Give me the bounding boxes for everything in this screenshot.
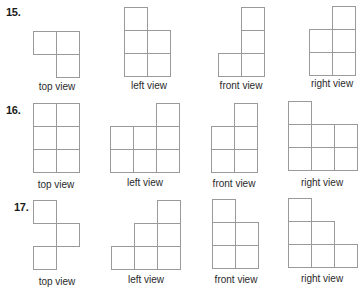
grid-cell (133, 149, 157, 173)
grid-cell (156, 126, 180, 150)
grid-cell (56, 103, 80, 127)
grid-cell (311, 147, 335, 171)
grid-cell (56, 223, 80, 247)
grid-cell (288, 198, 312, 222)
grid-cell (234, 126, 258, 150)
grid-cell (332, 6, 356, 30)
grid-cell (311, 244, 335, 268)
grid-cell (288, 244, 312, 268)
grid-cell (211, 149, 235, 173)
grid-cell (147, 53, 171, 77)
grid-cell (288, 101, 312, 125)
left-view-label: left view (128, 274, 164, 285)
grid-cell (212, 245, 236, 269)
grid-cell (133, 126, 157, 150)
grid-cell (334, 124, 358, 148)
grid-cell (157, 200, 181, 224)
grid-cell (211, 126, 235, 150)
right-view-label: right view (311, 78, 353, 89)
left-view-label: left view (127, 177, 163, 188)
grid-cell (56, 149, 80, 173)
orthographic-views-diagram: 15. top view left view front view right … (0, 0, 362, 291)
grid-cell (110, 149, 134, 173)
top-view-label: top view (38, 179, 75, 190)
grid-cell (110, 126, 134, 150)
problem-number-16: 16. (6, 104, 20, 116)
grid-cell (235, 222, 259, 246)
grid-cell (234, 149, 258, 173)
grid-cell (311, 221, 335, 245)
grid-cell (235, 245, 259, 269)
grid-cell (56, 54, 80, 78)
front-view-label: front view (215, 274, 258, 285)
front-view-label: front view (220, 80, 263, 91)
grid-cell (157, 223, 181, 247)
problem-number-15: 15. (6, 6, 20, 18)
grid-cell (156, 103, 180, 127)
right-view-label: right view (301, 177, 343, 188)
grid-cell (124, 53, 148, 77)
grid-cell (147, 30, 171, 54)
grid-cell (111, 246, 135, 270)
front-view-label: front view (213, 178, 256, 189)
grid-cell (212, 222, 236, 246)
grid-cell (33, 103, 57, 127)
grid-cell (334, 147, 358, 171)
grid-cell (311, 124, 335, 148)
grid-cell (288, 147, 312, 171)
grid-cell (56, 31, 80, 55)
top-view-label: top view (39, 276, 76, 287)
grid-cell (124, 30, 148, 54)
grid-cell (33, 126, 57, 150)
grid-cell (241, 7, 265, 31)
grid-cell (332, 29, 356, 53)
grid-cell (134, 246, 158, 270)
grid-cell (309, 29, 333, 53)
grid-cell (212, 199, 236, 223)
left-view-label: left view (131, 80, 167, 91)
right-view-label: right view (301, 273, 343, 284)
grid-cell (288, 221, 312, 245)
grid-cell (241, 30, 265, 54)
grid-cell (288, 124, 312, 148)
grid-cell (241, 53, 265, 77)
grid-cell (33, 149, 57, 173)
grid-cell (157, 246, 181, 270)
grid-cell (332, 52, 356, 76)
problem-number-17: 17. (14, 201, 28, 213)
grid-cell (33, 31, 57, 55)
grid-cell (56, 126, 80, 150)
grid-cell (124, 7, 148, 31)
grid-cell (334, 244, 358, 268)
top-view-label: top view (39, 81, 76, 92)
grid-cell (33, 246, 57, 270)
grid-cell (234, 103, 258, 127)
grid-cell (134, 223, 158, 247)
grid-cell (33, 200, 57, 224)
grid-cell (309, 52, 333, 76)
grid-cell (218, 53, 242, 77)
grid-cell (156, 149, 180, 173)
